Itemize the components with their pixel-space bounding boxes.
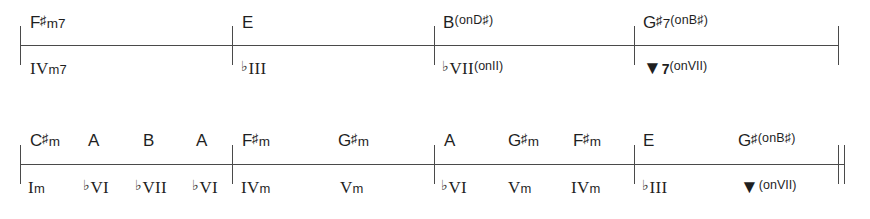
- dominant-triangle-icon: ▼: [643, 57, 662, 78]
- roman-numeral-degree: III: [650, 178, 668, 197]
- chord-bass: (onB♯): [670, 13, 708, 27]
- flat-icon: ♭: [241, 59, 248, 74]
- roman-numeral-degree: VI: [91, 178, 110, 197]
- sharp-icon: ♯: [656, 13, 663, 28]
- chord-bass: (onD♯): [455, 13, 494, 27]
- sharp-icon: ♯: [351, 131, 358, 146]
- chord-quality: m: [590, 134, 601, 149]
- chord-symbol: F♯m: [242, 132, 270, 149]
- flat-icon: ♭: [442, 59, 449, 74]
- chord-symbol: F♯m: [573, 132, 601, 149]
- barline-1-1: [20, 26, 21, 65]
- roman-numeral-degree: IV: [241, 178, 260, 197]
- sharp-icon: ♯: [751, 131, 758, 146]
- staff-line-2: [20, 164, 844, 165]
- flat-icon: ♭: [83, 178, 90, 193]
- roman-numeral: ♭VI: [192, 179, 218, 196]
- roman-numeral: ▼7(onVII): [643, 58, 707, 77]
- chord-root: B: [143, 131, 155, 150]
- roman-numeral-quality: m: [353, 181, 364, 196]
- roman-numeral: ♭VI: [83, 179, 109, 196]
- chord-quality: m: [259, 134, 270, 149]
- roman-numeral-quality: m: [590, 181, 601, 196]
- flat-icon: ♭: [135, 178, 142, 193]
- roman-numeral: IVm7: [30, 60, 67, 77]
- roman-numeral: ♭III: [642, 179, 667, 196]
- staff-system-2: C♯m A B A Im ♭VI ♭VII ♭VI F♯m G♯m: [0, 105, 870, 219]
- chord-symbol: A: [88, 132, 100, 149]
- roman-numeral: ▼(onVII): [740, 177, 796, 196]
- chord-symbol: B: [143, 132, 155, 149]
- roman-numeral: ♭VI: [441, 179, 467, 196]
- sharp-icon: ♯: [252, 131, 259, 146]
- roman-numeral-quality: m: [34, 181, 45, 196]
- chord-root: A: [444, 131, 456, 150]
- barline-2-3: [434, 145, 435, 184]
- chord-symbol: G♯(onB♯): [738, 132, 796, 149]
- chord-symbol: B(onD♯): [443, 14, 493, 31]
- chord-root: A: [88, 131, 100, 150]
- roman-numeral: ♭VII(onII): [442, 60, 503, 77]
- barline-2-end-thin: [838, 145, 839, 184]
- chord-symbol: A: [196, 132, 208, 149]
- roman-numeral: Vm: [340, 179, 363, 196]
- roman-numeral-degree: VI: [200, 178, 219, 197]
- chord-root: G: [508, 131, 521, 150]
- sharp-icon: ♯: [583, 131, 590, 146]
- roman-numeral-quality: 7: [662, 61, 670, 77]
- roman-numeral: Vm: [508, 179, 531, 196]
- roman-numeral-quality: m: [521, 181, 532, 196]
- barline-2-2: [232, 145, 233, 184]
- roman-numeral-bass: (onVII): [759, 178, 797, 192]
- sharp-icon: ♯: [42, 131, 49, 146]
- roman-numeral-degree: VI: [449, 178, 468, 197]
- chord-quality: m: [358, 134, 369, 149]
- barline-1-2: [232, 26, 233, 65]
- chord-symbol: E: [242, 14, 254, 31]
- chord-root: C: [30, 131, 42, 150]
- roman-numeral-degree: III: [249, 59, 267, 78]
- roman-numeral-quality: m7: [49, 62, 67, 77]
- chord-symbol: C♯m: [30, 132, 60, 149]
- roman-numeral-degree: VII: [450, 59, 475, 78]
- chord-symbol: G♯7(onB♯): [643, 14, 708, 31]
- chord-root: F: [30, 13, 41, 32]
- roman-numeral-degree: V: [508, 178, 521, 197]
- roman-numeral: ♭III: [241, 60, 266, 77]
- chord-symbol: G♯m: [508, 132, 539, 149]
- roman-numeral-degree: IV: [30, 59, 49, 78]
- roman-numeral-degree: VII: [143, 178, 168, 197]
- roman-numeral-bass: (onVII): [670, 59, 708, 73]
- roman-numeral: ♭VII: [135, 179, 167, 196]
- chord-quality: m7: [47, 16, 66, 31]
- chord-quality: m: [528, 134, 539, 149]
- chord-root: F: [573, 131, 584, 150]
- barline-2-4: [634, 145, 635, 184]
- flat-icon: ♭: [642, 178, 649, 193]
- flat-icon: ♭: [441, 178, 448, 193]
- flat-icon: ♭: [192, 178, 199, 193]
- sharp-icon: ♯: [521, 131, 528, 146]
- chord-root: E: [643, 131, 655, 150]
- barline-2-1: [20, 145, 21, 184]
- chord-symbol: F♯m7: [30, 14, 66, 31]
- staff-system-1: F♯m7 IVm7 E ♭III B(onD♯) ♭VII(onII) G♯7(…: [0, 0, 870, 105]
- roman-numeral-quality: m: [260, 181, 271, 196]
- chord-root: G: [643, 13, 656, 32]
- roman-numeral: IVm: [241, 179, 270, 196]
- chord-root: E: [242, 13, 254, 32]
- chord-symbol: E: [643, 132, 655, 149]
- chord-root: B: [443, 13, 455, 32]
- barline-2-end-final: [844, 145, 845, 184]
- roman-numeral: Im: [28, 179, 45, 196]
- chord-bass: (onB♯): [758, 131, 796, 145]
- chord-symbol: G♯m: [338, 132, 369, 149]
- roman-numeral-degree: V: [340, 178, 353, 197]
- roman-numeral: IVm: [571, 179, 600, 196]
- barline-1-end: [838, 26, 839, 65]
- chord-root: G: [738, 131, 751, 150]
- barline-1-3: [434, 26, 435, 65]
- dominant-triangle-icon: ▼: [740, 176, 759, 197]
- chord-root: A: [196, 131, 208, 150]
- chord-chart-sheet: F♯m7 IVm7 E ♭III B(onD♯) ♭VII(onII) G♯7(…: [0, 0, 870, 219]
